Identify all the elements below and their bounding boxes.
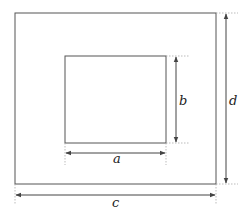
label-a: a bbox=[113, 151, 121, 166]
nested-rectangles-diagram: a b c d bbox=[0, 0, 249, 217]
label-c: c bbox=[112, 195, 120, 210]
label-d: d bbox=[229, 93, 237, 108]
inner-rectangle bbox=[65, 56, 166, 143]
extension-lines bbox=[15, 13, 238, 205]
label-b: b bbox=[179, 93, 187, 108]
